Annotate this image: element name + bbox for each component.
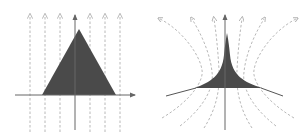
cusp-shape	[195, 33, 262, 88]
field-line	[254, 19, 296, 118]
left-boundary-line	[166, 88, 196, 96]
field-line	[237, 19, 252, 128]
left-diagram	[0, 0, 152, 139]
left-panel-triangle-parallel-field	[0, 0, 152, 139]
right-panel-cusp-curved-field	[152, 0, 304, 139]
right-diagram	[152, 0, 304, 139]
field-line	[160, 19, 202, 118]
right-boundary-line	[261, 88, 283, 96]
field-line	[180, 19, 212, 126]
field-line	[204, 19, 219, 128]
field-line	[244, 19, 276, 126]
